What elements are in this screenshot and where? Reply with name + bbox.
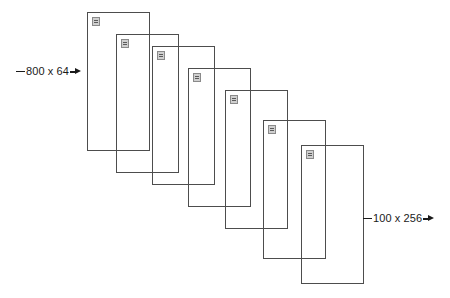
- window-glyph-icon: [230, 95, 238, 104]
- leader-dash-icon: [16, 71, 25, 73]
- window-glyph-icon: [92, 17, 100, 26]
- window-glyph-icon: [306, 150, 314, 159]
- leader-dash-icon: [363, 218, 372, 220]
- annotation-output-dimensions: 100 x 256: [363, 213, 434, 224]
- window-glyph-icon: [268, 125, 276, 134]
- window-glyph-icon: [157, 51, 165, 60]
- arrow-right-icon: [423, 215, 434, 222]
- layer-rectangle: [301, 145, 364, 284]
- annotation-left-label: 800 x 64: [26, 66, 69, 77]
- arrow-right-icon: [70, 68, 81, 75]
- layer-stack-diagram: 800 x 64 100 x 256: [0, 0, 450, 298]
- window-glyph-icon: [193, 73, 201, 82]
- annotation-right-label: 100 x 256: [373, 213, 422, 224]
- window-glyph-icon: [121, 39, 129, 48]
- annotation-input-dimensions: 800 x 64: [16, 66, 81, 77]
